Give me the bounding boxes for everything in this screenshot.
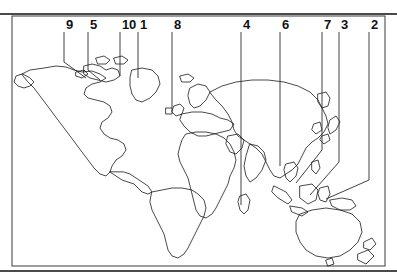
sumatra-outline	[272, 186, 292, 204]
borneo-outline	[300, 184, 318, 204]
leader-line-5	[88, 32, 100, 80]
callout-label-8[interactable]: 8	[174, 18, 181, 31]
callout-leader-lines	[64, 32, 369, 205]
bottom-rule	[0, 270, 397, 272]
greenland-outline	[130, 68, 160, 102]
philippines-outline	[312, 160, 320, 174]
new-zealand-north-outline	[364, 238, 376, 250]
new-zealand-south-outline	[358, 250, 374, 264]
arctic-island-a	[96, 56, 110, 64]
india-outline	[244, 144, 266, 182]
callout-label-3[interactable]: 3	[341, 18, 348, 31]
callout-label-9[interactable]: 9	[66, 18, 73, 31]
asia-outline	[210, 80, 328, 178]
sulawesi-outline	[318, 186, 330, 202]
figure-container: 9 5 10 1 8 4 6 7 3 2	[0, 0, 397, 280]
new-guinea-outline	[330, 198, 356, 210]
indochina-outline	[284, 162, 298, 182]
leader-line-2	[326, 32, 369, 199]
scandinavia-outline	[188, 84, 210, 108]
callout-label-6[interactable]: 6	[282, 18, 289, 31]
ireland-outline	[166, 108, 172, 114]
japan-outline	[328, 116, 340, 134]
java-outline	[290, 206, 308, 216]
arctic-island-b	[114, 56, 128, 64]
kamchatka-outline	[318, 92, 330, 108]
north-america-outline	[22, 66, 126, 176]
callout-label-4[interactable]: 4	[243, 18, 250, 31]
canadian-arctic-outline	[84, 64, 120, 82]
world-map-svg	[0, 14, 397, 270]
callout-label-7[interactable]: 7	[324, 18, 331, 31]
australia-outline	[296, 208, 362, 258]
callout-label-1[interactable]: 1	[140, 18, 147, 31]
callout-label-10[interactable]: 10	[122, 18, 136, 31]
japan-south-outline	[320, 134, 330, 144]
south-america-outline	[150, 188, 206, 258]
africa-outline	[178, 132, 236, 218]
korea-outline	[312, 122, 322, 134]
madagascar-outline	[238, 194, 250, 214]
callout-label-5[interactable]: 5	[90, 18, 97, 31]
leader-line-9	[64, 32, 86, 78]
iceland-outline	[180, 74, 194, 82]
callout-label-2[interactable]: 2	[371, 18, 378, 31]
central-america-outline	[110, 172, 152, 194]
tasmania-outline	[326, 258, 334, 266]
